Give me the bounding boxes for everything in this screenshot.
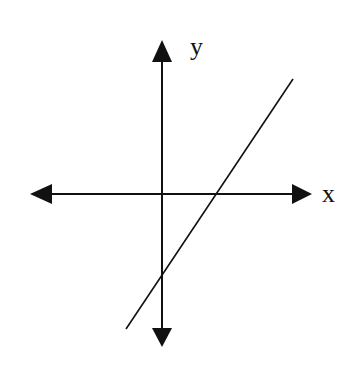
graph-line <box>126 79 293 329</box>
x-axis-right-arrow-icon <box>292 184 312 204</box>
x-axis-label: x <box>322 179 335 208</box>
y-axis-label: y <box>190 32 203 61</box>
y-axis-up-arrow-icon <box>152 40 172 62</box>
x-axis-left-arrow-icon <box>30 184 52 204</box>
y-axis-down-arrow-icon <box>152 328 172 347</box>
coordinate-diagram: y x <box>0 0 350 365</box>
